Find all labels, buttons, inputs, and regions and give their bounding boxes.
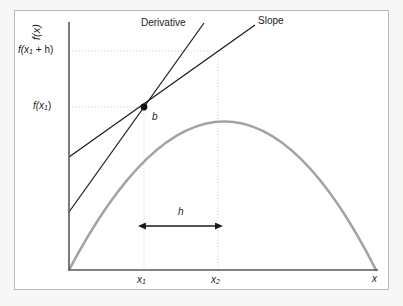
secant-line-label: Slope — [258, 16, 284, 26]
y-axis-label: f(x) — [31, 24, 42, 40]
tangent-line-label: Derivative — [141, 18, 185, 28]
plot-area — [0, 0, 403, 306]
function-curve — [69, 122, 376, 271]
x-axis-label: x — [372, 274, 377, 284]
point-b-marker — [141, 104, 148, 111]
y-tick-label-fx1h: f(x1 + h) — [18, 45, 53, 55]
figure-root: f(x) f(x1 + h) f(x1) b Derivative Slope … — [0, 0, 403, 306]
x-tick-label-x2: x2 — [211, 275, 220, 285]
y-tick-label-fx1: f(x1) — [33, 101, 51, 111]
point-b-label: b — [152, 112, 158, 122]
h-interval-label: h — [178, 207, 184, 217]
secant-line — [69, 25, 255, 157]
x-tick-label-x1: x1 — [137, 275, 146, 285]
